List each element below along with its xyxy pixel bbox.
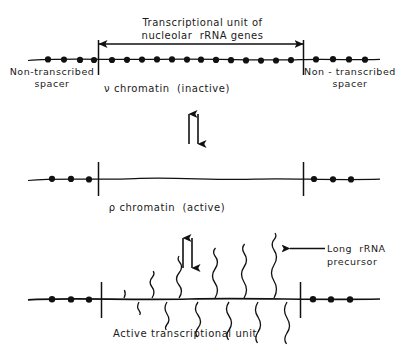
chromatin-fibre xyxy=(28,178,380,180)
figure-title-line1: Transcriptional unit of xyxy=(142,17,262,28)
figure-caption: Active transcriptional unit xyxy=(80,328,290,340)
nascent-transcript xyxy=(213,248,218,298)
nascent-transcripts-above xyxy=(124,233,277,298)
nascent-transcript xyxy=(124,290,125,298)
nascent-transcript xyxy=(165,302,169,330)
dna-axis xyxy=(28,299,380,300)
nascent-transcript-longest xyxy=(272,233,277,298)
non-transcribed-spacer-right-label: Non - transcribed spacer xyxy=(300,66,400,90)
nascent-transcript xyxy=(150,271,154,298)
nascent-transcript xyxy=(138,302,141,315)
nu-chromatin-inactive-label: ν chromatin (inactive) xyxy=(62,83,272,95)
figure-title-line2: nucleolar rRNA genes xyxy=(142,30,264,41)
rrna-transcription-diagram: Transcriptional unit ofnucleolar rRNA ge… xyxy=(0,0,402,355)
nascent-transcript xyxy=(177,256,182,298)
diagram-canvas xyxy=(0,0,402,355)
long-rrna-precursor-label: Long rRNA precursor xyxy=(327,242,401,268)
equilibrium-arrow-lower xyxy=(183,238,192,268)
nascent-transcript xyxy=(242,244,247,298)
figure-title: Transcriptional unit ofnucleolar rRNA ge… xyxy=(95,16,310,42)
equilibrium-arrow-upper xyxy=(189,114,198,144)
active-chromatin-panel xyxy=(28,162,380,196)
rho-chromatin-active-label: ρ chromatin (active) xyxy=(62,202,272,214)
